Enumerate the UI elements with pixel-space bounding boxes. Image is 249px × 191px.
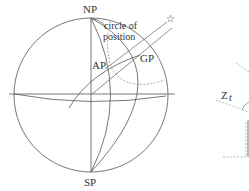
zenith-dashed-1 — [236, 63, 249, 72]
label-np: NP — [83, 3, 97, 15]
zenith-angle-arc — [242, 102, 249, 110]
label-zenith-angle: Z — [221, 89, 228, 101]
label-zenith-sub: t — [229, 92, 232, 103]
label-gp: GP — [140, 52, 154, 64]
label-sp: SP — [84, 176, 96, 188]
label-position: position — [103, 31, 135, 42]
celestial-sphere-diagram: NP SP circle of position AP GP ☆ Z t — [0, 0, 249, 191]
label-ap: AP — [92, 59, 106, 71]
equator-curve — [14, 94, 166, 102]
star-icon: ☆ — [166, 13, 175, 24]
label-circle-of: circle of — [104, 20, 138, 31]
